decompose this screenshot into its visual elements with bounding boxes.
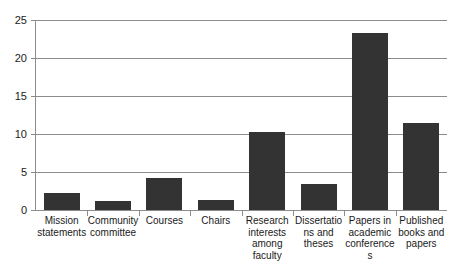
- y-axis-tick-label: 20: [0, 53, 27, 64]
- x-axis-category-label: Dissertations and theses: [293, 215, 344, 250]
- bar[interactable]: [198, 200, 234, 210]
- bar-slot: [87, 20, 138, 210]
- x-axis-category-label: Research interests among faculty: [242, 215, 293, 261]
- bar[interactable]: [95, 201, 131, 210]
- x-axis-category-label: Mission statements: [36, 215, 87, 238]
- bar-slot: [36, 20, 87, 210]
- y-axis-tick-label: 5: [0, 167, 27, 178]
- bars-layer: [36, 20, 447, 210]
- x-axis-category-label: Published books and papers: [396, 215, 447, 250]
- bar-slot: [242, 20, 293, 210]
- y-axis-tick-label: 15: [0, 91, 27, 102]
- x-axis-category-label: Courses: [139, 215, 190, 227]
- bar-slot: [396, 20, 447, 210]
- x-axis-category-label: Community committee: [87, 215, 138, 238]
- x-axis-category-label: Papers in academic conferences: [344, 215, 395, 261]
- bar[interactable]: [44, 193, 80, 210]
- bar[interactable]: [352, 33, 388, 210]
- bar-slot: [190, 20, 241, 210]
- y-axis-tick-label: 0: [0, 205, 27, 216]
- bar[interactable]: [403, 123, 439, 210]
- y-axis-tick-label: 25: [0, 15, 27, 26]
- x-axis-labels: Mission statementsCommunity committeeCou…: [36, 215, 447, 265]
- bar[interactable]: [249, 132, 285, 210]
- bar-slot: [139, 20, 190, 210]
- bar[interactable]: [146, 178, 182, 210]
- bar-slot: [293, 20, 344, 210]
- bar-chart: 0510152025 Mission statementsCommunity c…: [0, 0, 449, 265]
- x-axis-category-label: Chairs: [190, 215, 241, 227]
- bar[interactable]: [301, 184, 337, 210]
- bar-slot: [344, 20, 395, 210]
- y-axis-tick-label: 10: [0, 129, 27, 140]
